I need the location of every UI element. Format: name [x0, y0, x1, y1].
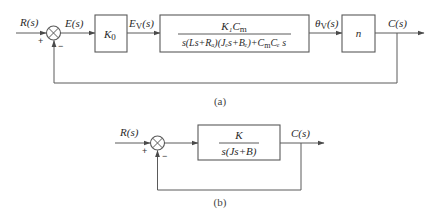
input-label-a: R(s): [19, 16, 39, 29]
diagram-a: R(s) + − E(s) K0 EV(s) K₁Cm s(Ls+Rₐ)(Jₑs…: [16, 15, 424, 108]
plus-sign-b: +: [142, 146, 147, 156]
diagram-b: R(s) + − K s(Js+B) C(s) (b): [115, 125, 324, 209]
summing-junction-b: [151, 136, 165, 150]
gear-ratio-label: n: [356, 27, 362, 39]
ev-label: EV(s): [128, 17, 154, 31]
plus-sign-a: +: [38, 36, 43, 46]
summing-junction-a: [47, 26, 61, 40]
plant-tf-denominator: s(Js+B): [222, 145, 257, 158]
caption-a: (a): [214, 95, 227, 108]
caption-b: (b): [214, 196, 227, 209]
output-label-b: C(s): [291, 127, 310, 140]
block-diagram-canvas: R(s) + − E(s) K0 EV(s) K₁Cm s(Ls+Rₐ)(Jₑs…: [0, 0, 440, 217]
plant-tf-numerator: K: [234, 129, 243, 141]
input-label-b: R(s): [119, 126, 139, 139]
minus-sign-b: −: [162, 151, 167, 161]
error-label-a: E(s): [64, 17, 84, 30]
minus-sign-a: −: [58, 41, 63, 51]
output-label-a: C(s): [388, 17, 407, 30]
theta-label: θV(s): [315, 17, 339, 31]
